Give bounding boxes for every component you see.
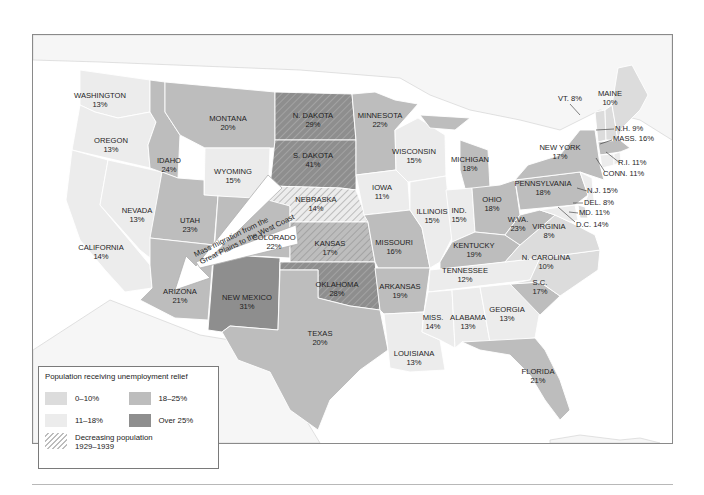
legend-swatch-11-18	[45, 414, 67, 427]
label-south-carolina: S.C.17%	[532, 278, 547, 296]
label-connecticut: CONN. 11%	[603, 169, 644, 178]
legend-item-11-18: 11–18%	[45, 414, 129, 427]
label-indiana: IND.15%	[451, 206, 466, 224]
label-ohio: OHIO18%	[482, 195, 502, 213]
label-utah: UTAH23%	[180, 216, 200, 234]
label-rhode-island: R.I. 11%	[618, 158, 647, 167]
legend-swatch-0-10	[45, 392, 67, 405]
label-vermont: VT. 8%	[558, 94, 582, 103]
label-west-virginia: W.VA.23%	[508, 215, 529, 233]
bottom-divider	[32, 484, 673, 485]
state-vermont[interactable]	[595, 110, 606, 142]
label-dc: D.C. 14%	[576, 220, 609, 229]
map-legend: Population receiving unemployment relief…	[38, 366, 219, 469]
label-new-jersey: N.J. 15%	[587, 186, 618, 195]
legend-hatch-swatch	[45, 433, 67, 449]
label-delaware: DEL. 8%	[584, 198, 614, 207]
legend-swatch-18-25	[129, 392, 151, 405]
label-maryland: MD. 11%	[579, 208, 610, 217]
legend-title: Population receiving unemployment relief	[45, 372, 212, 381]
legend-item-0-10: 0–10%	[45, 392, 129, 405]
label-new-hampshire: N.H. 9%	[615, 124, 644, 133]
legend-item-over-25: Over 25%	[129, 414, 213, 427]
state-connecticut[interactable]	[600, 154, 614, 168]
state-florida[interactable]	[462, 338, 570, 420]
label-mississippi: MISS.14%	[423, 313, 444, 331]
legend-item-decreasing-population: Decreasing population 1929–1939	[45, 433, 212, 451]
label-massachusetts: MASS. 16%	[613, 134, 654, 143]
legend-item-18-25: 18–25%	[129, 392, 213, 405]
cuba-island	[550, 435, 660, 443]
legend-swatch-over-25	[129, 414, 151, 427]
